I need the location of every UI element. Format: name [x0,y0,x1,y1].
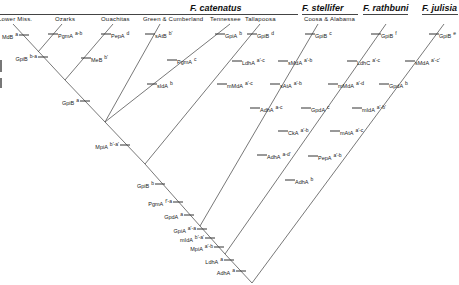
allele-state: a'-b [294,80,302,86]
allele-state: c [194,56,197,62]
character-state-label: LdhAa [205,257,223,266]
character-state-label: mAtAa'-c [340,128,363,137]
allele-state: a'-b [300,127,308,133]
locus-name: mIdA [180,237,193,243]
population-label: Lower Miss. [0,16,32,22]
locus-name: LdhA [205,259,218,265]
character-state-label: GpiAb [225,31,242,40]
locus-name: LdhA [242,60,255,66]
character-state-label: CkAa'-b [288,128,309,137]
character-state-label: PgmAa-b [58,31,82,40]
allele-state: b [310,176,313,182]
allele-state: a'-b' [377,104,386,110]
allele-state: d [126,30,129,36]
character-state-label: sMdAa'-b [288,58,312,67]
allele-state: a [220,256,223,262]
locus-name: GpiB [381,33,393,39]
locus-name: PgmA [177,59,192,65]
allele-state: a'-a [188,225,196,231]
allele-state: a [76,97,79,103]
allele-state: b [405,80,408,86]
allele-state: f [395,30,396,36]
allele-state: a'-c' [431,57,440,63]
character-state-label: AdhAa-c [260,105,282,114]
character-state-label: MpiAa'-b [190,244,213,253]
scan-edge-mark [0,60,2,72]
population-label: Coosa & Alabama [304,16,355,22]
scan-edge-mark [0,78,2,88]
allele-state: a [232,267,235,273]
locus-name: GpiB [137,183,149,189]
locus-name: GpdA [389,83,403,89]
locus-name: sMdA [415,60,429,66]
allele-state: c [327,104,330,110]
character-state-label: GpiBb [137,181,154,190]
allele-state: f'-a [165,198,172,204]
locus-name: GpiB [16,56,28,62]
locus-name: MdB [2,34,13,40]
locus-name: GpiB [439,33,451,39]
population-label: Tallapoosa [245,16,276,22]
allele-state: b' [169,30,173,36]
allele-state: a'-c [355,127,363,133]
character-state-label: AdhAa-d' [267,152,291,161]
character-state-label: AdhAa [217,268,235,277]
character-state-label: MeBb' [91,55,108,64]
species-underline [302,14,358,15]
species-label: F. rathbuni [363,3,409,13]
allele-state: b'-a' [195,234,204,240]
character-state-label: sMdAa'-c' [415,58,440,67]
character-state-label: PepAd [111,31,129,40]
character-state-label: mIdAa'-b' [362,105,386,114]
locus-name: GpiB [315,33,327,39]
allele-state: a'-c [372,57,380,63]
allele-state: b' [104,54,108,60]
character-state-label: PgmAf'-a [148,199,172,208]
character-state-label: mMdAa'-c [227,81,253,90]
species-underline [422,14,458,15]
character-state-label: PgmAc [177,57,196,66]
locus-name: GpdA [311,107,325,113]
locus-name: MpiA [190,246,203,252]
character-state-label: sAtAa'-b [280,81,302,90]
species-underline [363,14,408,15]
locus-name: AdhA [217,270,230,276]
locus-name: mMdA [227,83,243,89]
allele-state: a'-d [356,80,364,86]
allele-state: a-c [275,104,282,110]
allele-state: d [271,30,274,36]
species-label: F. stellifer [302,3,344,13]
allele-state: a-d' [282,151,290,157]
locus-name: GpiB [62,100,74,106]
branch-coosa-alabama [200,24,318,226]
character-state-label: GpiBf [381,31,397,40]
locus-name: GpiB [257,33,269,39]
allele-state: a'-c [245,80,253,86]
allele-state: b [151,180,154,186]
character-state-label: GpiBd [257,31,274,40]
population-label: Tennessee [210,16,241,22]
locus-name: sAtB [155,33,167,39]
allele-state: a [180,211,183,217]
locus-name: PgmA [148,201,163,207]
allele-state: a [15,31,18,37]
allele-state: a-b [75,30,82,36]
character-state-label: GpiBa [62,98,79,107]
character-state-label: GpiBc [315,31,332,40]
locus-name: mMdA [338,83,354,89]
character-state-label: sAtBb' [155,31,172,40]
population-label: Green & Cumberland [143,16,203,22]
locus-name: MpiA [95,144,108,150]
character-state-label: PepAa'-b [318,153,342,162]
locus-name: sAtA [280,83,292,89]
character-state-label: GpdAa [164,212,183,221]
locus-name: GpiA [174,228,186,234]
locus-name: PepA [318,155,331,161]
character-state-label: AdhAb [295,177,313,186]
species-label: F. julisia [422,3,457,13]
locus-name: AdhA [267,154,280,160]
character-state-label: MpiAb'-a' [95,142,119,151]
locus-name: mIdA [362,107,375,113]
allele-state: a'-c [257,57,265,63]
allele-state: e [453,30,456,36]
